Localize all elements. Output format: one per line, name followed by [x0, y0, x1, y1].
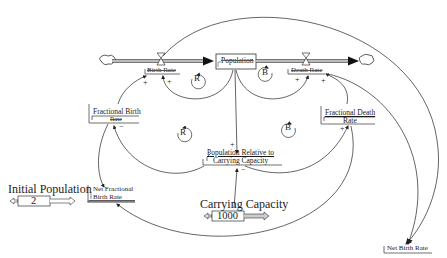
death-rate-label[interactable]: Death Rate	[291, 67, 322, 74]
net-fractional-birth-rate-line1[interactable]: Net Fractional	[93, 186, 133, 193]
sink-cloud-icon	[359, 54, 373, 65]
fractional-death-rate-line2[interactable]: Rate	[343, 117, 357, 125]
polarity-birth-right: +	[167, 78, 172, 86]
initial-population-value[interactable]: 2	[31, 196, 36, 207]
birth-rate-label[interactable]: Birth Rate	[147, 67, 176, 74]
initial-population-label[interactable]: Initial Population	[8, 183, 92, 195]
polarity-prc-minus: −	[241, 166, 246, 174]
population-label[interactable]: Population	[221, 57, 254, 65]
initial-population-constant[interactable]	[10, 196, 75, 206]
population-relative-line2[interactable]: Carrying Capacity	[213, 157, 268, 165]
polarity-fbr-minus: −	[119, 123, 124, 131]
polarity-prc-plus: +	[230, 141, 235, 149]
net-fractional-birth-rate-line2[interactable]: Birth Rate	[93, 194, 122, 201]
death-valve-icon	[302, 53, 310, 65]
carrying-capacity-label[interactable]: Carrying Capacity	[200, 198, 288, 210]
loop-b-top-label: B	[262, 68, 268, 77]
loop-b-mid-label: B	[285, 123, 291, 132]
loop-r-top-label: R	[194, 74, 200, 83]
loop-r-mid-label: R	[180, 128, 186, 137]
polarity-birth-left: +	[143, 79, 148, 87]
net-birth-rate-label[interactable]: Net Birth Rate	[387, 245, 428, 252]
carrying-capacity-value[interactable]: 1000	[217, 211, 238, 222]
polarity-death-right: +	[321, 77, 326, 85]
polarity-fdr-plus: +	[340, 125, 345, 133]
polarity-death-left: +	[295, 76, 300, 84]
